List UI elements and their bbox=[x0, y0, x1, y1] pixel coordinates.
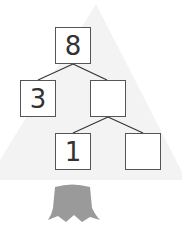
node-value-bottom-left: 1 bbox=[65, 139, 82, 165]
node-box-bottom-left: 1 bbox=[55, 133, 91, 170]
node-box-top: 8 bbox=[55, 27, 91, 64]
node-value-top: 8 bbox=[65, 33, 82, 59]
node-value-left: 3 bbox=[30, 86, 47, 112]
node-box-left: 3 bbox=[20, 80, 56, 117]
tree-trunk bbox=[48, 185, 100, 223]
tree-background bbox=[0, 0, 182, 237]
node-box-mid-empty[interactable] bbox=[90, 80, 126, 117]
node-box-bottom-right-empty[interactable] bbox=[125, 133, 161, 170]
